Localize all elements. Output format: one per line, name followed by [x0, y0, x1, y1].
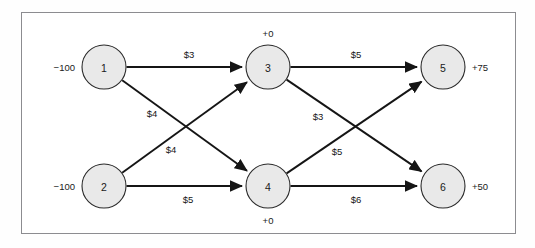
node-5: 5+75	[421, 45, 488, 89]
network-graph: 1−1002−1003+04+05+756+50 $3$4$4$5$5$3$5$…	[0, 0, 535, 248]
node-label-3: 3	[265, 62, 271, 74]
edge-2-to-3	[122, 82, 247, 173]
edge-cost-label-3-6: $3	[313, 111, 324, 122]
edge-cost-label-4-5: $5	[332, 146, 343, 157]
edge-4-to-5	[287, 82, 422, 174]
node-3: 3+0	[246, 28, 290, 90]
edge-cost-label-4-6: $6	[351, 194, 362, 205]
node-supply-label-1: −100	[54, 62, 75, 73]
node-2: 2−100	[54, 164, 126, 208]
node-label-2: 2	[101, 181, 107, 193]
edge-3-to-6	[287, 80, 422, 172]
node-supply-label-3: +0	[263, 28, 274, 39]
edge-cost-label-2-4: $5	[183, 194, 194, 205]
node-label-5: 5	[440, 62, 446, 74]
edge-cost-label-1-3: $3	[184, 49, 195, 60]
nodes-layer: 1−1002−1003+04+05+756+50	[54, 28, 489, 226]
node-1: 1−100	[54, 45, 126, 89]
node-label-4: 4	[265, 181, 271, 193]
node-supply-label-4: +0	[263, 215, 274, 226]
edge-cost-label-2-3: $4	[166, 144, 177, 155]
figure-root: 1−1002−1003+04+05+756+50 $3$4$4$5$5$3$5$…	[0, 0, 535, 248]
edge-cost-label-1-4: $4	[147, 108, 158, 119]
edge-cost-label-3-5: $5	[351, 49, 362, 60]
node-supply-label-5: +75	[472, 62, 488, 73]
node-supply-label-2: −100	[54, 181, 75, 192]
node-label-6: 6	[440, 181, 446, 193]
node-6: 6+50	[421, 164, 488, 208]
node-4: 4+0	[246, 164, 290, 226]
node-label-1: 1	[101, 62, 107, 74]
edge-1-to-4	[122, 80, 247, 171]
node-supply-label-6: +50	[472, 181, 488, 192]
